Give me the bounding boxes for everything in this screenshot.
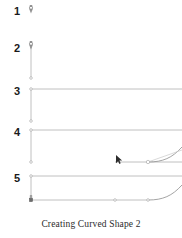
step-3-illustration: [30, 88, 182, 123]
step-number-5: 5: [6, 173, 20, 184]
anchor-point: [30, 129, 33, 132]
curve-control-handle: [148, 150, 182, 162]
step-number-3: 3: [6, 86, 20, 97]
anchor-point: [114, 199, 117, 202]
curve-anchor-point: [146, 160, 149, 163]
anchor-point: [147, 199, 150, 202]
step-1-illustration: [29, 5, 32, 14]
pen-tool-icon: [29, 41, 32, 50]
step-4-illustration: [30, 129, 182, 164]
step-number-4: 4: [6, 127, 20, 138]
anchor-point: [30, 175, 33, 178]
anchor-point: [30, 161, 33, 164]
curved-shape-tutorial-figure: 1 2 3 4 5: [0, 0, 182, 238]
pen-tool-icon: [29, 5, 32, 14]
curve-segment: [148, 147, 182, 162]
anchor-point: [30, 120, 33, 123]
step-number-2: 2: [6, 43, 20, 54]
anchor-point: [30, 77, 33, 80]
step-number-1: 1: [6, 6, 20, 17]
figure-caption: Creating Curved Shape 2: [0, 219, 182, 229]
curve-segment: [148, 185, 182, 200]
step-5-illustration: [29, 175, 182, 203]
step-2-illustration: [29, 41, 32, 79]
tutorial-diagram-canvas: [0, 0, 182, 238]
mouse-cursor-icon: [116, 155, 122, 164]
anchor-point: [30, 88, 33, 91]
